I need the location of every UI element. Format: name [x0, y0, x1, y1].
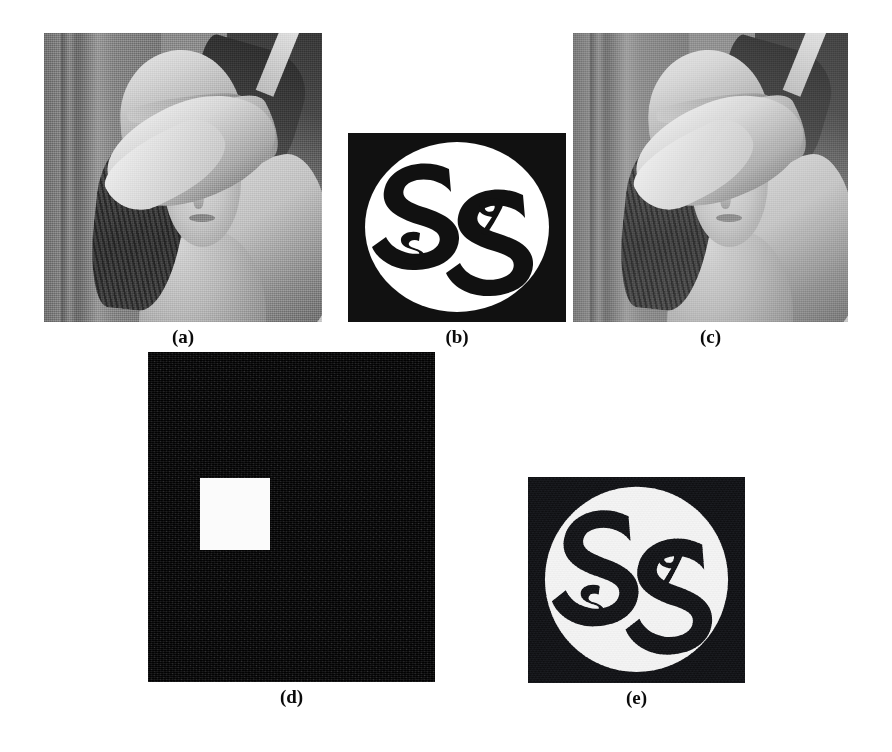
- lena-render-c: [573, 33, 848, 322]
- background-post: [61, 33, 78, 322]
- caption-e: (e): [528, 687, 745, 709]
- tamper-detection-image: [148, 352, 435, 682]
- background-post: [590, 33, 607, 322]
- caption-b: (b): [348, 326, 566, 348]
- caption-d: (d): [148, 686, 435, 708]
- tampered-region-block: [200, 478, 270, 550]
- panel-d-tamper-map: [148, 352, 435, 682]
- caption-c: (c): [573, 326, 848, 348]
- lips: [716, 214, 742, 222]
- original-watermark-image: [348, 133, 566, 322]
- tamper-noise-overlay: [148, 352, 435, 682]
- logo-disc: [365, 142, 549, 312]
- panel-b-watermark-logo: [348, 133, 566, 322]
- panel-c-watermarked-image: [573, 33, 848, 322]
- lena-render-a: [44, 33, 322, 322]
- extracted-watermark-image: [528, 477, 745, 683]
- lips: [189, 214, 215, 222]
- panel-e-extracted-watermark: [528, 477, 745, 683]
- watermarked-lena-image: [573, 33, 848, 322]
- logo-disc: [545, 487, 728, 672]
- figure-canvas: (a) (b): [0, 0, 892, 752]
- original-lena-image: [44, 33, 322, 322]
- logo-vector-b: [348, 133, 566, 322]
- caption-a: (a): [44, 326, 322, 348]
- logo-field-noisy: [528, 477, 745, 683]
- tamper-field: [148, 352, 435, 682]
- logo-field: [348, 133, 566, 322]
- panel-a-original-image: [44, 33, 322, 322]
- logo-vector-e: [528, 477, 745, 683]
